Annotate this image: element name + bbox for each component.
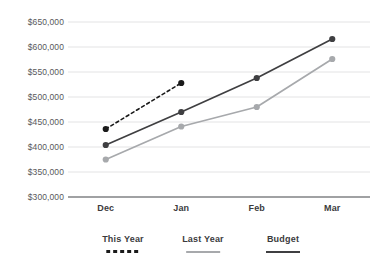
chart-plot-area — [0, 0, 388, 272]
legend-item-label: This Year — [102, 234, 144, 244]
series-line-last-year — [106, 59, 333, 160]
data-point-budget — [329, 36, 335, 42]
data-point-budget — [178, 109, 184, 115]
data-point-this-year — [103, 126, 109, 132]
x-axis-tick-label: Mar — [324, 203, 341, 213]
x-axis-tick-label: Dec — [97, 203, 114, 213]
dashed-line-swatch — [106, 250, 140, 253]
data-point-last-year — [329, 56, 335, 62]
legend-item-budget[interactable]: Budget — [266, 234, 300, 253]
legend-item-last-year[interactable]: Last Year — [182, 234, 224, 253]
data-point-last-year — [254, 104, 260, 110]
line-chart: $650,000$600,000$550,000$500,000$450,000… — [0, 0, 388, 272]
x-axis-tick-label: Jan — [173, 203, 189, 213]
solid-gray-line-swatch — [186, 251, 220, 253]
series-line-budget — [106, 39, 333, 145]
chart-legend: This YearLast YearBudget — [68, 234, 370, 268]
x-axis-tick-label: Feb — [248, 203, 265, 213]
data-point-this-year — [178, 80, 184, 86]
data-point-budget — [103, 142, 109, 148]
legend-item-label: Last Year — [182, 234, 224, 244]
data-point-budget — [254, 75, 260, 81]
legend-item-label: Budget — [266, 234, 300, 244]
data-point-last-year — [178, 123, 184, 129]
data-point-last-year — [103, 156, 109, 162]
legend-item-this-year[interactable]: This Year — [102, 234, 144, 253]
solid-dark-line-swatch — [266, 251, 300, 253]
